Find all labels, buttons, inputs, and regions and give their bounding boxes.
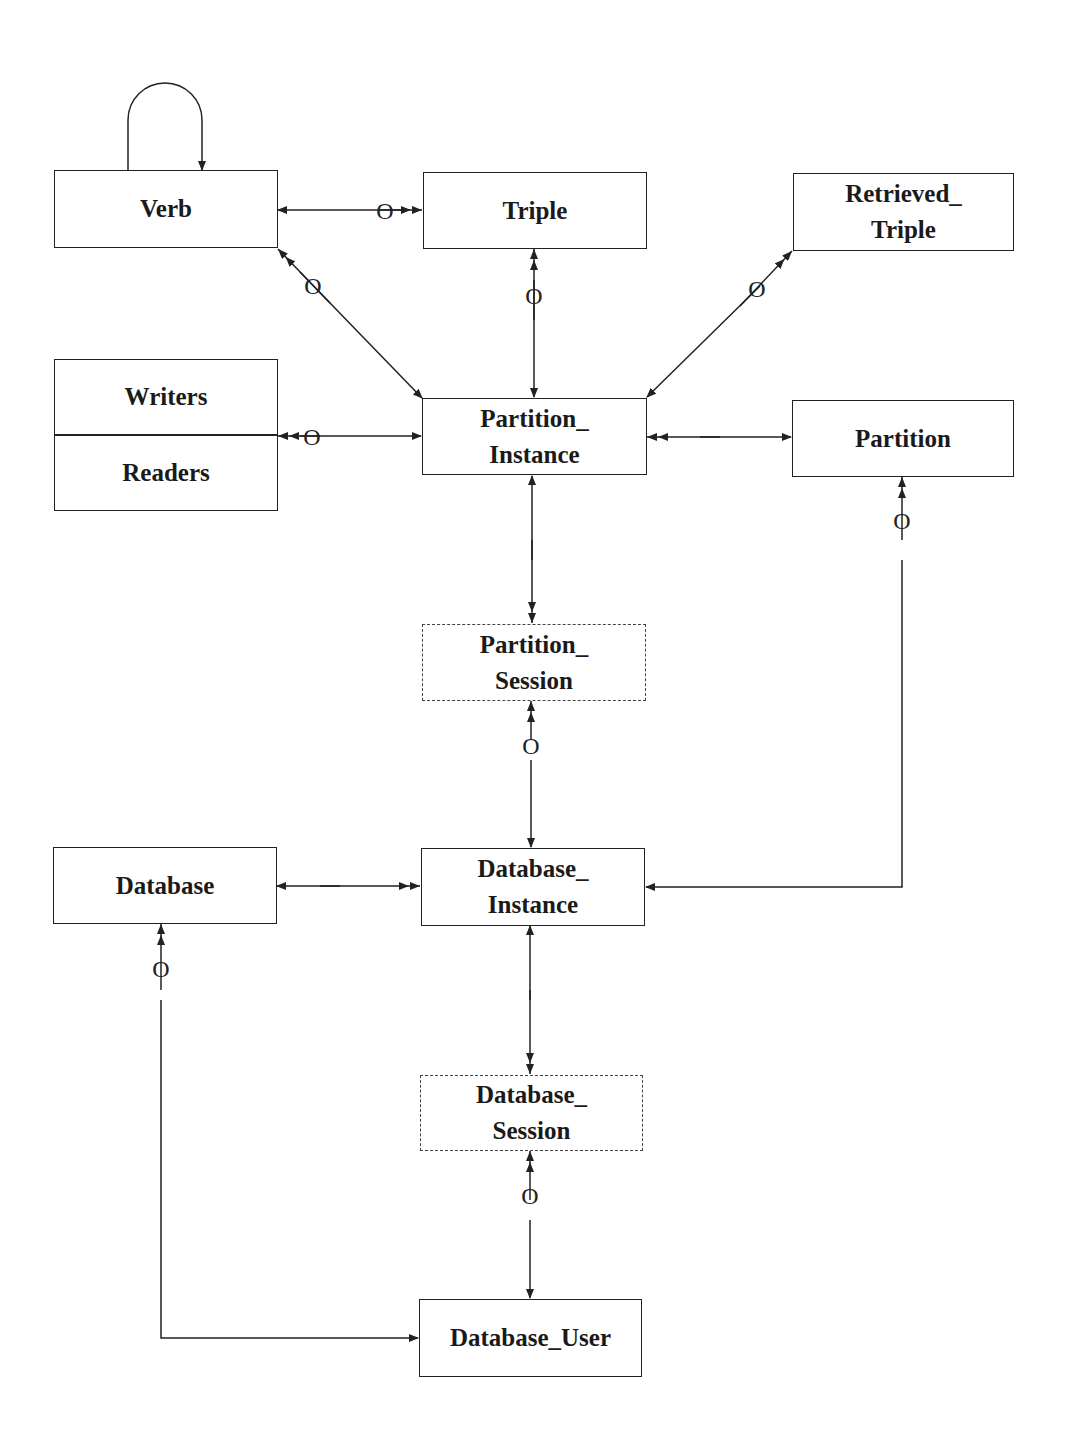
optional-marker-pi-triple: O <box>525 283 542 309</box>
optional-marker-pi-retrieved: O <box>748 276 765 302</box>
optional-marker-db-du: O <box>152 956 169 982</box>
entity-label: Partition_ <box>480 627 588 663</box>
optional-marker-verb-triple: O <box>376 198 393 224</box>
optional-marker-ds-du: O <box>521 1183 538 1209</box>
optional-marker-ps-di: O <box>522 733 539 759</box>
entity-label: Triple <box>871 212 936 248</box>
entity-retrieved-triple: Retrieved_ Triple <box>793 173 1014 251</box>
optional-marker-wr-pi: O <box>303 424 320 450</box>
entity-label: Instance <box>488 887 578 923</box>
entity-label: Instance <box>489 437 579 473</box>
entity-label: Writers <box>125 379 208 415</box>
optional-marker-partition-di: O <box>893 508 910 534</box>
entity-database-session: Database_ Session <box>420 1075 643 1151</box>
entity-label: Session <box>495 663 573 699</box>
entity-label: Database_ <box>477 851 588 887</box>
optional-marker-pi-verb: O <box>304 273 321 299</box>
entity-partition-session: Partition_ Session <box>422 624 646 701</box>
entity-partition-instance: Partition_ Instance <box>422 398 647 475</box>
er-diagram: O O O O O O O O O Verb Triple Retrieved_… <box>0 0 1065 1430</box>
entity-label: Retrieved_ <box>845 176 962 212</box>
entity-writers: Writers <box>55 360 277 436</box>
entity-writers-readers: Writers Readers <box>54 359 278 511</box>
verb-self-loop <box>128 83 202 170</box>
entity-verb: Verb <box>54 170 278 248</box>
entity-label: Database <box>116 868 215 904</box>
entity-label: Partition_ <box>480 401 588 437</box>
entity-label: Verb <box>140 191 192 227</box>
entity-readers: Readers <box>55 436 277 510</box>
entity-label: Readers <box>122 455 209 491</box>
entity-label: Database_User <box>450 1320 611 1356</box>
entity-database: Database <box>53 847 277 924</box>
entity-partition: Partition <box>792 400 1014 477</box>
entity-label: Database_ <box>476 1077 587 1113</box>
entity-label: Session <box>493 1113 571 1149</box>
entity-label: Triple <box>503 193 568 229</box>
entity-database-instance: Database_ Instance <box>421 848 645 926</box>
entity-database-user: Database_User <box>419 1299 642 1377</box>
entity-triple: Triple <box>423 172 647 249</box>
partition-di-link <box>646 560 902 887</box>
db-du-link <box>161 1000 418 1338</box>
entity-label: Partition <box>855 421 951 457</box>
